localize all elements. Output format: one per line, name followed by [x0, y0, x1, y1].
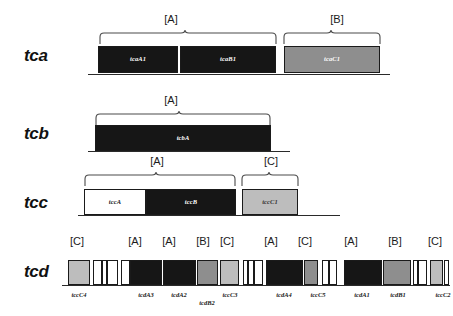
bracket-label-tcd-6: [C]: [292, 236, 318, 247]
bracket-label-tcd-7: [A]: [338, 236, 364, 247]
brace-tca-b: [283, 30, 381, 44]
gene-cluster-diagram: tca [A] [B] tcaA1 tcaB1 tcaC1 tcb [A]: [0, 0, 453, 316]
locus-label-tcc: tcc: [24, 193, 48, 213]
gene-label-tcaA1: tcaA1: [130, 56, 146, 63]
gene-label-tccA: tccA: [109, 199, 121, 206]
gene-spacer-8[interactable]: [322, 260, 329, 285]
gene-label-tcaB1: tcaB1: [220, 56, 236, 63]
gene-label-tccC2: tccC2: [421, 292, 453, 299]
locus-label-tca: tca: [24, 46, 48, 66]
locus-label-tcd: tcd: [24, 262, 49, 282]
gene-label-tcdB2: tcdB2: [185, 300, 229, 307]
bracket-label-tcd-9: [C]: [422, 236, 448, 247]
bracket-label-tcd-0: [C]: [64, 236, 90, 247]
brace-tcc-c: [241, 172, 299, 186]
bracket-label-tcc-0: [A]: [142, 156, 172, 167]
gene-tccC4[interactable]: [68, 260, 90, 285]
gene-spacer-12[interactable]: [444, 260, 449, 285]
baseline-tcb: [88, 151, 290, 152]
gene-tcaA1[interactable]: tcaA1: [98, 46, 178, 73]
gene-tcaC1[interactable]: tcaC1: [284, 46, 380, 73]
baseline-tca: [88, 74, 390, 75]
brace-tca-a: [99, 30, 277, 44]
gene-tcdA3[interactable]: [130, 260, 162, 285]
gene-label-tccB: tccB: [185, 199, 197, 206]
gene-tccA[interactable]: tccA: [84, 189, 146, 215]
gene-spacer-7[interactable]: [254, 260, 263, 285]
gene-tcdB2[interactable]: [197, 260, 218, 285]
brace-tcc-a: [84, 172, 236, 186]
gene-tcdB1[interactable]: [383, 260, 411, 285]
gene-tcdA4[interactable]: [266, 260, 303, 285]
gene-tccC1[interactable]: tccC1: [242, 189, 298, 215]
gene-tcaB1[interactable]: tcaB1: [180, 46, 276, 73]
gene-label-tccC4: tccC4: [56, 292, 102, 299]
gene-tcdA2[interactable]: [163, 260, 196, 285]
gene-tccB[interactable]: tccB: [146, 189, 236, 215]
gene-label-tcdB1: tcdB1: [376, 292, 420, 299]
gene-label-tccC1: tccC1: [262, 199, 278, 206]
gene-label-tccC3: tccC3: [208, 292, 252, 299]
baseline-tcc: [78, 215, 340, 216]
bracket-label-tcd-1: [A]: [122, 236, 148, 247]
bracket-label-tcd-3: [B]: [190, 236, 216, 247]
gene-tccC2[interactable]: [430, 260, 443, 285]
bracket-label-tcd-4: [C]: [214, 236, 240, 247]
locus-label-tcb: tcb: [24, 124, 49, 144]
gene-spacer-4[interactable]: [121, 260, 130, 285]
gene-tcbA[interactable]: tcbA: [95, 125, 271, 151]
brace-tcb-a: [95, 111, 271, 125]
gene-spacer-3[interactable]: [107, 260, 118, 285]
gene-label-tcbA: tcbA: [177, 135, 190, 142]
gene-label-tcaC1: tcaC1: [324, 56, 340, 63]
gene-tccC3[interactable]: [220, 260, 239, 285]
bracket-label-tcd-2: [A]: [156, 236, 182, 247]
bracket-label-tcc-1: [C]: [256, 156, 286, 167]
gene-spacer-1[interactable]: [93, 260, 102, 285]
gene-spacer-9[interactable]: [329, 260, 337, 285]
gene-label-tcdA2: tcdA2: [157, 292, 201, 299]
gene-tcdA1[interactable]: [344, 260, 382, 285]
gene-label-tccC5: tccC5: [296, 292, 340, 299]
gene-spacer-11[interactable]: [418, 260, 427, 285]
bracket-label-tca-0: [A]: [156, 14, 186, 25]
bracket-label-tca-1: [B]: [322, 14, 352, 25]
bracket-label-tcd-5: [A]: [258, 236, 284, 247]
gene-tccC5[interactable]: [304, 260, 318, 285]
baseline-tcd: [62, 285, 450, 286]
bracket-label-tcb-0: [A]: [156, 95, 186, 106]
bracket-label-tcd-8: [B]: [382, 236, 408, 247]
